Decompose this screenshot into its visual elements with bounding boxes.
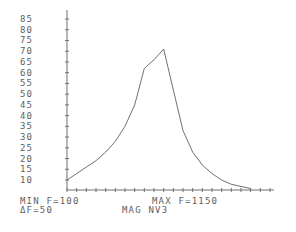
delta-f-label: ΔF=50: [20, 206, 53, 215]
y-tick-label: 70: [20, 46, 33, 56]
y-tick-label: 75: [20, 35, 33, 45]
y-tick-label: 40: [20, 111, 33, 121]
y-tick-label: 85: [20, 14, 33, 24]
y-tick-label: 35: [20, 121, 33, 131]
y-tick-label: 15: [20, 164, 33, 174]
y-tick-label: 30: [20, 132, 33, 142]
y-tick-label: 45: [20, 100, 33, 110]
x-axis: [67, 188, 274, 192]
y-tick-label: 65: [20, 57, 33, 67]
y-tick-label: 25: [20, 143, 33, 153]
y-tick-label: 50: [20, 89, 33, 99]
mag-nv3-curve: [67, 49, 251, 189]
y-tick-label: 60: [20, 68, 33, 78]
y-axis: 85807570656055504540353025201510: [20, 10, 69, 190]
y-tick-label: 20: [20, 154, 33, 164]
y-tick-label: 10: [20, 175, 33, 185]
mag-label: MAG NV3: [122, 206, 168, 215]
y-tick-label: 80: [20, 25, 33, 35]
y-tick-label: 55: [20, 78, 33, 88]
